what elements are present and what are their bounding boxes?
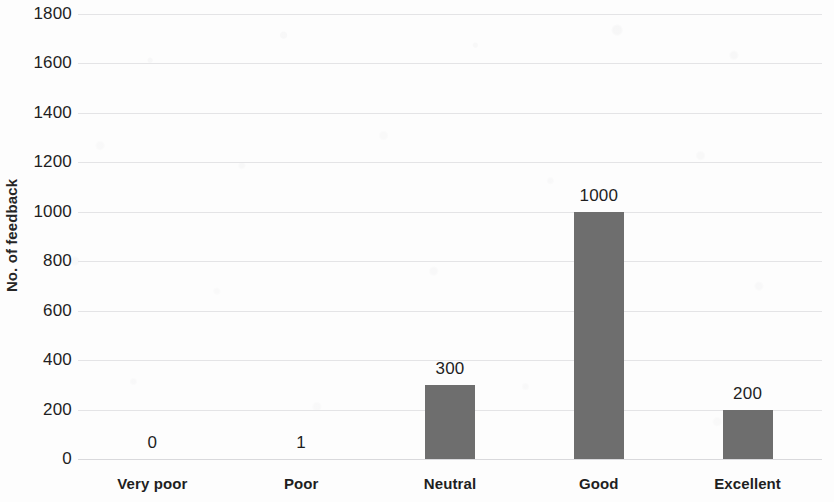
bar <box>425 385 475 459</box>
bar <box>723 410 773 459</box>
y-axis-tick-label: 1200 <box>16 152 72 172</box>
y-axis-tick-label: 600 <box>16 301 72 321</box>
x-axis-tick-label: Very poor <box>117 475 187 492</box>
bar-value-label: 200 <box>733 384 762 404</box>
bar-chart: No. of feedback 180016001400120010008006… <box>0 0 834 502</box>
gridline <box>78 14 822 15</box>
bar <box>574 212 624 459</box>
bar-value-label: 1 <box>296 433 306 453</box>
plot-area: 0Very poor1Poor300Neutral1000Good200Exce… <box>78 0 822 502</box>
x-axis-tick-label: Good <box>579 475 619 492</box>
bar-value-label: 1000 <box>579 186 618 206</box>
gridline <box>78 113 822 114</box>
y-axis-tick-label: 400 <box>16 350 72 370</box>
x-axis-tick-label: Poor <box>284 475 319 492</box>
gridline <box>78 261 822 262</box>
y-axis-tick-label: 800 <box>16 251 72 271</box>
y-axis-tick-label: 1800 <box>16 4 72 24</box>
gridline <box>78 162 822 163</box>
x-axis-tick-label: Neutral <box>424 475 476 492</box>
y-axis-tick-label: 0 <box>16 449 72 469</box>
y-axis-tick-label: 1000 <box>16 202 72 222</box>
gridline <box>78 212 822 213</box>
axis-baseline <box>78 459 822 460</box>
bar-value-label: 300 <box>436 359 465 379</box>
bar-value-label: 0 <box>148 433 158 453</box>
gridline <box>78 311 822 312</box>
y-axis-tick-label: 1400 <box>16 103 72 123</box>
gridline <box>78 63 822 64</box>
y-axis-tick-labels: 180016001400120010008006004002000 <box>16 0 72 502</box>
y-axis-tick-label: 200 <box>16 400 72 420</box>
x-axis-tick-label: Excellent <box>714 475 781 492</box>
y-axis-tick-label: 1600 <box>16 53 72 73</box>
